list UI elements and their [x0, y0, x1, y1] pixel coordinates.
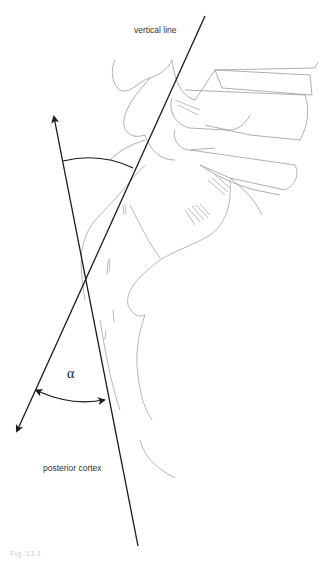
alpha-angle-arc: [40, 392, 104, 402]
sketch-shading: [105, 100, 230, 340]
sacrum-sketch: [81, 165, 230, 478]
posterior-cortex-label: posterior cortex: [43, 463, 102, 473]
upper-angle-arc: [63, 158, 133, 168]
vertebra-sketch: [110, 60, 318, 215]
posterior-cortex-line: [54, 117, 138, 546]
figure-caption: Fig. 13.1: [10, 549, 41, 558]
alpha-angle-label: α: [67, 366, 74, 382]
vertical-line-label: vertical line: [134, 25, 177, 35]
vertical-reference-line: [17, 16, 205, 431]
